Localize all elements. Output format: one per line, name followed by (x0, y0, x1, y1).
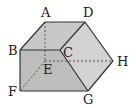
vertex-label-d: D (83, 5, 93, 20)
vertex-label-h: H (117, 54, 128, 69)
vertex-label-a: A (40, 5, 51, 20)
vertex-label-g: G (83, 92, 93, 107)
vertex-label-b: B (8, 43, 18, 58)
vertex-label-f: F (8, 84, 17, 99)
vertex-label-c: C (63, 45, 73, 60)
vertex-label-e: E (43, 62, 53, 77)
solid-figure-diagram: A D B C E H F G (0, 0, 136, 108)
